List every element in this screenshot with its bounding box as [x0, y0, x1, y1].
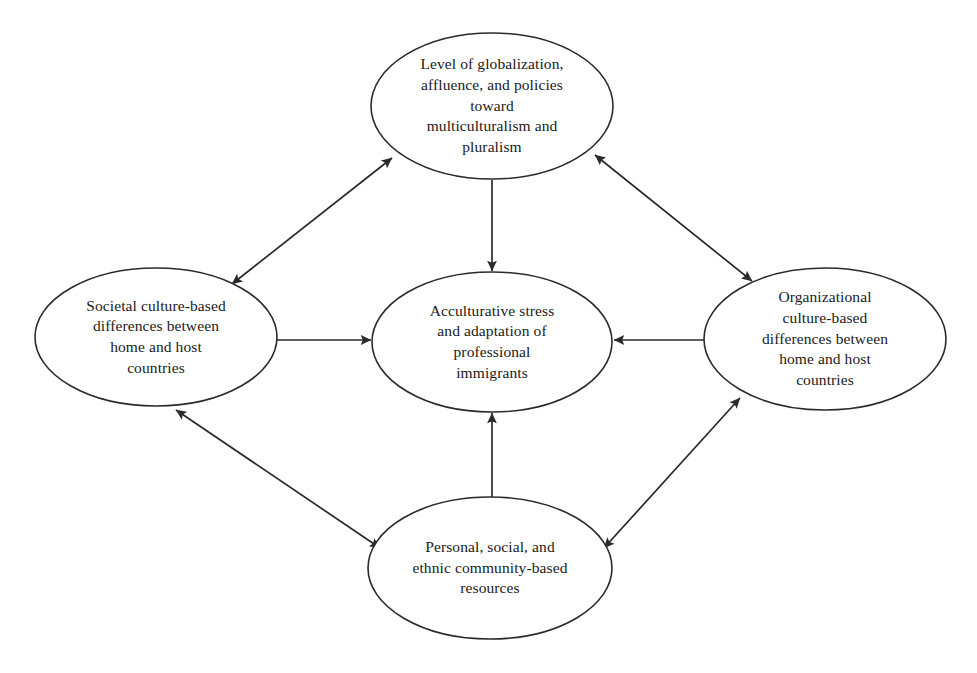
edge-personal-organizational — [604, 398, 740, 548]
edge-globalization-organizational — [595, 155, 752, 281]
diagram-root: Level of globalization,affluence, and po… — [0, 0, 977, 673]
node-organizational-culture-shape[interactable] — [704, 268, 946, 410]
nodes-layer — [35, 33, 946, 639]
node-societal-culture-shape[interactable] — [35, 268, 277, 406]
node-globalization-shape[interactable] — [371, 33, 613, 179]
node-personal-resources-shape[interactable] — [368, 497, 612, 639]
node-acculturative-stress-shape[interactable] — [372, 272, 612, 412]
edge-societal-personal — [176, 410, 380, 548]
edge-globalization-societal — [232, 158, 392, 284]
diagram-canvas — [0, 0, 977, 673]
